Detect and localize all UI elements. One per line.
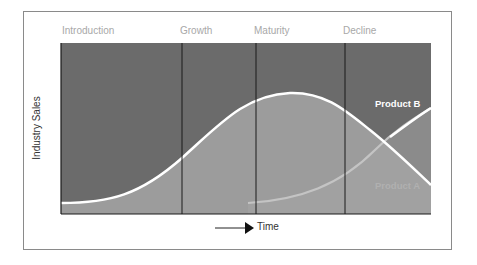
product-a-label: Product A	[375, 180, 420, 191]
time-arrow-icon	[245, 222, 254, 234]
x-axis-label: Time	[257, 221, 279, 232]
y-axis-label: Industry Sales	[31, 96, 42, 159]
product-b-label: Product B	[375, 98, 420, 109]
plot-area	[0, 0, 477, 265]
